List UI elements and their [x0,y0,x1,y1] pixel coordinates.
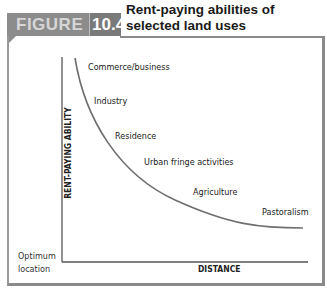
curve-label-residence: Residence [115,130,156,141]
curve-label-agriculture: Agriculture [193,186,237,197]
curve-label-pastoralism: Pastoralism [262,206,309,217]
y-axis-label: RENT-PAYING ABILITY [63,99,73,207]
x-axis-label: DISTANCE [198,264,240,274]
curve-label-commerce: Commerce/business [88,61,170,72]
curve-label-industry: Industry [94,95,127,106]
rent-curve [75,58,303,228]
origin-label-line2: location [18,262,56,275]
origin-label: Optimum location [18,249,56,275]
bid-rent-plot [0,0,327,290]
origin-label-line1: Optimum [18,249,56,262]
curve-label-urban-fringe: Urban fringe activities [144,156,234,167]
